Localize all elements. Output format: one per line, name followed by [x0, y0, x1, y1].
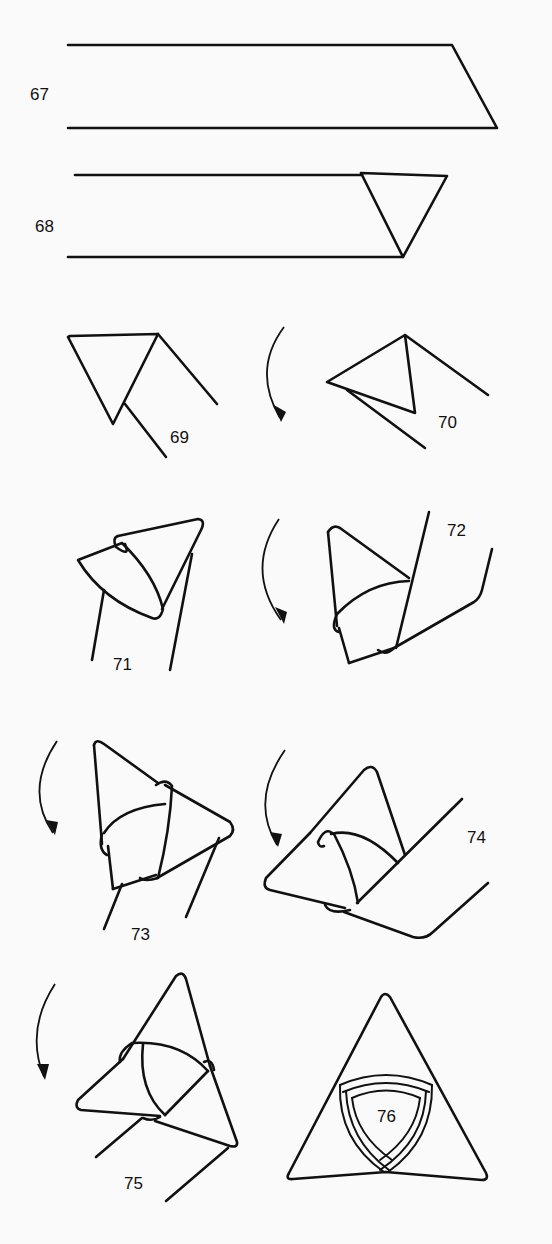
top-triangle [310, 767, 405, 855]
step-label: 69 [170, 428, 189, 447]
step-label: 72 [447, 521, 466, 540]
curl [143, 1117, 160, 1120]
step-label: 70 [438, 413, 457, 432]
origami-diagram: 67 68 69 70 71 [0, 0, 552, 1244]
strip-edge [158, 334, 217, 404]
cone-lower-edge [339, 628, 349, 663]
cone-inner-flap [78, 543, 163, 619]
cone-top-edge [328, 527, 409, 578]
cone-bottom-edge [349, 648, 394, 663]
fold-curve [337, 581, 409, 614]
rotate-arrow-icon [37, 984, 55, 1080]
rotate-arrow-icon [262, 519, 287, 624]
strip-edge [125, 404, 166, 457]
strip-edge [405, 335, 488, 395]
step-label: 73 [131, 925, 150, 944]
triangle-flap [327, 335, 415, 413]
step-72: 72 [328, 512, 492, 663]
second-cone-back [140, 782, 172, 880]
step-label: 75 [124, 1174, 143, 1193]
step-69: 69 [68, 334, 217, 457]
rotate-arrow-icon [267, 327, 286, 422]
folded-triangle [361, 173, 447, 257]
cone-top-edge [94, 741, 158, 783]
step-75: 75 [77, 974, 238, 1201]
fold-curve [104, 804, 165, 833]
strip-edge [96, 1118, 142, 1157]
triangle-flap [68, 334, 158, 424]
strip-edge [166, 1148, 228, 1201]
curl [101, 834, 107, 855]
rotate-arrow-icon [265, 750, 285, 847]
step-label: 67 [30, 85, 49, 104]
step-label: 74 [467, 828, 486, 847]
final-triangle [288, 994, 487, 1180]
step-70: 70 [327, 335, 488, 448]
step-71: 71 [78, 519, 203, 674]
top-triangle [123, 974, 210, 1066]
right-triangle [155, 1066, 237, 1147]
step-67: 67 [30, 45, 497, 128]
strip-edge [396, 512, 429, 648]
band-inner-top [352, 1091, 420, 1099]
strip-edge [92, 590, 104, 660]
cone-left-edge [328, 532, 337, 626]
rotate-arrow-icon [39, 741, 58, 835]
strip-edge-bent [344, 883, 488, 938]
strip-edge [104, 884, 122, 929]
step-label: 71 [113, 655, 132, 674]
fold-curve-inner [334, 834, 358, 903]
step-76: 76 [288, 994, 487, 1180]
step-68: 68 [35, 173, 447, 257]
strip-edge [186, 838, 219, 917]
cone-left-edge [94, 745, 102, 844]
strip-edge-bent [378, 549, 492, 653]
fold-curve-inner [142, 1044, 165, 1115]
crease [165, 1071, 208, 1115]
cone-lower-edge [108, 846, 113, 889]
step-label: 76 [377, 1107, 396, 1126]
step-label: 68 [35, 217, 54, 236]
step-74: 74 [265, 767, 488, 938]
step-73: 73 [94, 741, 233, 944]
folded-strip [68, 45, 497, 128]
strip-edge [357, 799, 462, 903]
